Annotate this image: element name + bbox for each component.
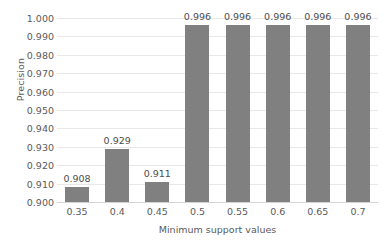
x-tick-label: 0.55 <box>218 206 258 217</box>
bar[interactable] <box>185 25 209 202</box>
bar[interactable] <box>226 25 250 202</box>
bar-slot: 0.908 <box>57 18 97 202</box>
gridline <box>57 202 378 203</box>
precision-bar-chart: Precision 1.0000.9900.9800.9700.9600.950… <box>0 0 384 246</box>
bar-series: 0.9080.9290.9110.9960.9960.9960.9960.996 <box>57 18 378 202</box>
bar[interactable] <box>105 149 129 202</box>
bar[interactable] <box>306 25 330 202</box>
x-tick-label: 0.4 <box>97 206 137 217</box>
bar[interactable] <box>145 182 169 202</box>
x-tick-label: 0.7 <box>338 206 378 217</box>
y-tick-label: 1.000 <box>20 13 54 24</box>
x-tick-label: 0.35 <box>57 206 97 217</box>
bar-slot: 0.996 <box>218 18 258 202</box>
bar-value-label: 0.996 <box>224 11 251 22</box>
x-tick-label: 0.65 <box>298 206 338 217</box>
y-tick-label: 0.910 <box>20 178 54 189</box>
bar-value-label: 0.929 <box>104 135 131 146</box>
bar[interactable] <box>266 25 290 202</box>
bar-value-label: 0.911 <box>144 168 171 179</box>
y-tick-label: 0.980 <box>20 49 54 60</box>
y-tick-label: 0.960 <box>20 86 54 97</box>
y-axis-tick-labels: 1.0000.9900.9800.9700.9600.9500.9400.930… <box>20 18 54 202</box>
bar-slot: 0.996 <box>258 18 298 202</box>
y-tick-label: 0.950 <box>20 105 54 116</box>
y-tick-label: 0.920 <box>20 160 54 171</box>
x-tick-label: 0.45 <box>137 206 177 217</box>
bar-slot: 0.996 <box>298 18 338 202</box>
y-tick-label: 0.940 <box>20 123 54 134</box>
y-tick-label: 0.970 <box>20 68 54 79</box>
bar-value-label: 0.996 <box>304 11 331 22</box>
bar[interactable] <box>65 187 89 202</box>
bar-slot: 0.929 <box>97 18 137 202</box>
x-tick-label: 0.5 <box>177 206 217 217</box>
x-axis-title: Minimum support values <box>57 224 378 235</box>
y-tick-label: 0.930 <box>20 141 54 152</box>
bar[interactable] <box>346 25 370 202</box>
bar-slot: 0.996 <box>177 18 217 202</box>
bar-value-label: 0.996 <box>264 11 291 22</box>
plot-area: 0.9080.9290.9110.9960.9960.9960.9960.996 <box>57 18 378 202</box>
bar-slot: 0.911 <box>137 18 177 202</box>
bar-value-label: 0.996 <box>344 11 371 22</box>
x-axis-tick-labels: 0.350.40.450.50.550.60.650.7 <box>57 206 378 217</box>
y-tick-label: 0.990 <box>20 31 54 42</box>
bar-value-label: 0.996 <box>184 11 211 22</box>
y-tick-label: 0.900 <box>20 197 54 208</box>
bar-slot: 0.996 <box>338 18 378 202</box>
bar-value-label: 0.908 <box>63 173 90 184</box>
x-tick-label: 0.6 <box>258 206 298 217</box>
